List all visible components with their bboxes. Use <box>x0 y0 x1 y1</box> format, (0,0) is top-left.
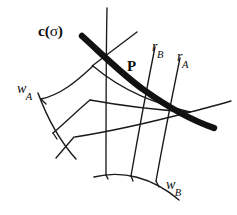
wall-a-arc <box>38 93 76 159</box>
ray-rb-subscript: B <box>157 49 163 60</box>
mesh-line-lower-left-spoke <box>56 137 74 158</box>
wall-wb-label: wB <box>166 176 182 196</box>
mesh-line-left-rib-lower <box>53 133 57 139</box>
mesh-line-bottom-rib-center <box>106 175 108 179</box>
figure-vector-layer <box>0 0 237 215</box>
ray-ra-label: rA <box>177 48 189 68</box>
wall-wb-base: w <box>166 177 175 192</box>
mesh-line-group <box>41 8 231 187</box>
wall-wb-subscript: B <box>175 187 181 198</box>
ray-rb-label: rB <box>152 38 164 58</box>
c-sigma-close: ) <box>58 22 63 39</box>
wall-wa-label: wA <box>17 80 33 100</box>
mesh-line-vertical-center <box>106 8 107 175</box>
mesh-line-upper-left-spoke <box>41 66 93 99</box>
mesh-line-radial-lower <box>75 112 190 137</box>
c-sigma-base: c( <box>38 22 50 39</box>
wall-wa-subscript: A <box>26 91 32 102</box>
wall-wa-base: w <box>17 81 26 96</box>
point-p-label: P <box>127 59 136 74</box>
c-sigma-label: c(σ) <box>38 23 63 39</box>
ray-ra-subscript: A <box>182 59 188 70</box>
mesh-line-mid-left-spoke <box>53 100 90 133</box>
sigma-glyph: σ <box>50 22 58 39</box>
mesh-line-radial-far <box>190 101 231 112</box>
figure-canvas: c(σ) P rB rA wA wB <box>0 0 237 215</box>
